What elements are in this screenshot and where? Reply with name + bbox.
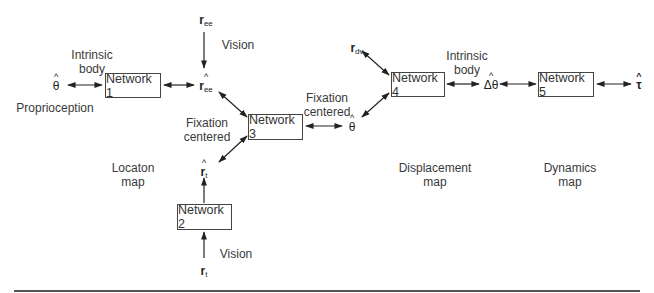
network-4-box: Network 4: [391, 72, 445, 97]
label-line: map: [540, 175, 600, 189]
label-line: Displacement: [395, 161, 475, 175]
label-line: map: [108, 175, 158, 189]
label-line: centered: [182, 130, 232, 144]
r-ee-hat-symbol: ^ree: [194, 74, 218, 96]
hat: ^: [194, 74, 218, 80]
theta-hat-symbol-mid: ^θ: [344, 115, 360, 133]
base: τ: [636, 78, 641, 92]
delta-theta-hat-symbol: ^Δθ: [480, 73, 502, 91]
displacement-map-label: Displacement map: [395, 161, 475, 189]
proprioception-label: Proprioception: [16, 101, 94, 115]
network-5-box: Network 5: [538, 72, 594, 97]
subscript: ee: [204, 85, 213, 94]
base: θ: [53, 79, 60, 93]
r-dv-symbol: rdv: [346, 42, 368, 58]
label-line: Locaton: [108, 161, 158, 175]
network-3-label: Network 3: [249, 113, 302, 141]
arrow-theta-network4: [362, 93, 389, 117]
label-line: Fixation: [182, 116, 232, 130]
connection-arrows: [0, 0, 654, 293]
network-1-box: Network 1: [105, 73, 161, 98]
dynamics-map-label: Dynamics map: [540, 161, 600, 189]
label-line: Fixation: [302, 91, 352, 105]
arrow-ree-network3: [219, 92, 247, 117]
vision-label-top: Vision: [218, 38, 258, 52]
base: Δθ: [484, 78, 499, 92]
fixation-centered-label-left: Fixation centered: [182, 116, 232, 144]
r-t-symbol: rt: [196, 265, 212, 281]
label-line: body: [62, 62, 122, 76]
location-map-label: Locaton map: [108, 161, 158, 189]
r-ee-symbol: ree: [194, 14, 218, 30]
network-4-label: Network 4: [392, 71, 444, 99]
intrinsic-body-label-left: Intrinsic body: [62, 48, 122, 76]
label-line: Dynamics: [540, 161, 600, 175]
network-3-box: Network 3: [248, 114, 303, 140]
label-line: Intrinsic: [442, 49, 492, 63]
network-2-box: Network 2: [177, 204, 232, 230]
network-5-label: Network 5: [539, 71, 593, 99]
r-t-hat-symbol: ^rt: [196, 160, 212, 182]
subscript: t: [205, 171, 207, 180]
subscript: dv: [355, 47, 363, 56]
base: θ: [349, 120, 356, 134]
vision-label-bottom: Vision: [216, 247, 256, 261]
label-line: Intrinsic: [62, 48, 122, 62]
subscript: t: [205, 270, 207, 279]
bottom-rule-divider: [14, 290, 640, 292]
tau-hat-symbol: ^τ: [632, 73, 646, 91]
network-2-label: Network 2: [178, 203, 231, 231]
theta-hat-symbol-left: ^θ: [48, 74, 64, 92]
label-line: map: [395, 175, 475, 189]
subscript: ee: [204, 19, 213, 28]
